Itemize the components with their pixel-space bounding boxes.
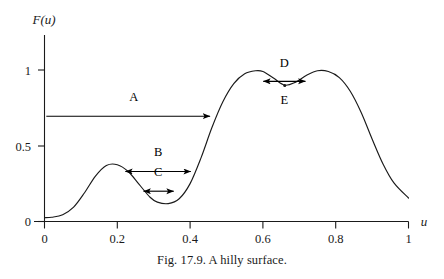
annotation-e: E [281, 84, 289, 107]
annotation-label-b: B [154, 145, 162, 159]
annotation-label-c: C [154, 165, 162, 179]
hilly-surface-plot: 1 0.5 0 F(u) 0 0.2 0.4 0.6 0.8 1 u ABCDE [0, 0, 444, 279]
figure-caption: Fig. 17.9. A hilly surface. [0, 253, 444, 268]
annotation-d: D [263, 56, 305, 81]
x-tick-label-0point6: 0.6 [255, 232, 271, 246]
surface-curve [45, 70, 409, 217]
figure-page: 1 0.5 0 F(u) 0 0.2 0.4 0.6 0.8 1 u ABCDE… [0, 0, 444, 279]
x-tick-label-1: 1 [405, 232, 411, 246]
y-tick-label-0point5: 0.5 [15, 140, 31, 154]
annotation-label-d: D [280, 56, 289, 70]
y-axis-group: 1 0.5 0 F(u) [15, 12, 55, 229]
y-tick-label-0: 0 [25, 215, 31, 229]
annotation-c: C [144, 165, 174, 191]
annotation-label-e: E [281, 93, 289, 107]
y-axis-title: F(u) [31, 12, 55, 27]
annotation-a: A [46, 90, 210, 116]
annotation-layer: ABCDE [46, 56, 305, 191]
x-axis-title: u [421, 214, 428, 229]
x-axis-group: 0 0.2 0.4 0.6 0.8 1 u [34, 214, 428, 246]
x-tick-label-0: 0 [41, 232, 47, 246]
x-tick-label-0point8: 0.8 [328, 232, 344, 246]
annotation-point-e [283, 84, 286, 87]
x-tick-label-0point2: 0.2 [109, 232, 125, 246]
y-tick-label-1: 1 [25, 64, 31, 78]
x-tick-label-0point4: 0.4 [182, 232, 198, 246]
annotation-label-a: A [129, 90, 138, 104]
